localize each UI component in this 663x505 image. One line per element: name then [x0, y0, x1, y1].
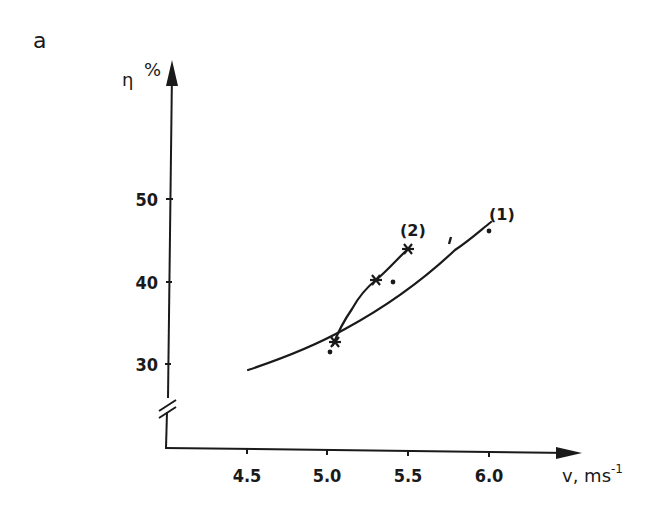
x-axis-title-main: v, ms	[562, 465, 611, 486]
data-point-dot	[391, 280, 396, 285]
star-marker-icon	[370, 275, 382, 285]
y-tick-label: 30	[135, 354, 158, 375]
x-axis-arrow-icon	[556, 447, 582, 459]
y-axis-unit: %	[144, 59, 161, 80]
x-tick-label: 5.0	[313, 465, 342, 486]
chart: 50 40 30 η % 4.5 5.0 5.5 6.0 v, ms-1	[0, 0, 663, 505]
x-axis	[165, 447, 582, 459]
data-point-dot	[487, 229, 492, 234]
x-tick-label: 4.5	[233, 465, 262, 486]
y-axis-symbol: η	[122, 69, 133, 90]
data-point-tick	[449, 237, 451, 244]
x-tick-label: 6.0	[475, 465, 504, 486]
y-tick-label: 40	[135, 272, 158, 293]
y-axis-arrow-icon	[166, 60, 178, 86]
star-marker-icon	[402, 244, 414, 254]
data-point-dot	[328, 350, 333, 355]
series-2-label: (2)	[400, 221, 426, 240]
y-tick-label: 50	[135, 189, 158, 210]
series-1-label: (1)	[489, 205, 515, 224]
series-1-curve	[248, 222, 491, 370]
x-axis-title: v, ms-1	[562, 462, 623, 486]
x-axis-title-sup: -1	[611, 462, 623, 476]
x-tick-label: 5.5	[394, 465, 423, 486]
y-axis	[159, 60, 178, 448]
